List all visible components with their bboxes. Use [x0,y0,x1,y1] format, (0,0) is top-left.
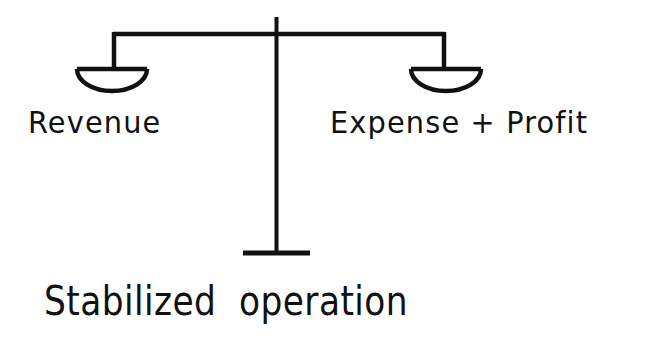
right-pan-label: Expense + Profit [330,108,588,138]
left-pan-icon [77,69,147,91]
left-pan-label: Revenue [28,108,162,138]
balance-scale-figure: Revenue Expense + Profit Stabilized oper… [0,0,651,342]
right-pan-icon [411,69,481,91]
figure-caption: Stabilized operation [44,281,408,321]
